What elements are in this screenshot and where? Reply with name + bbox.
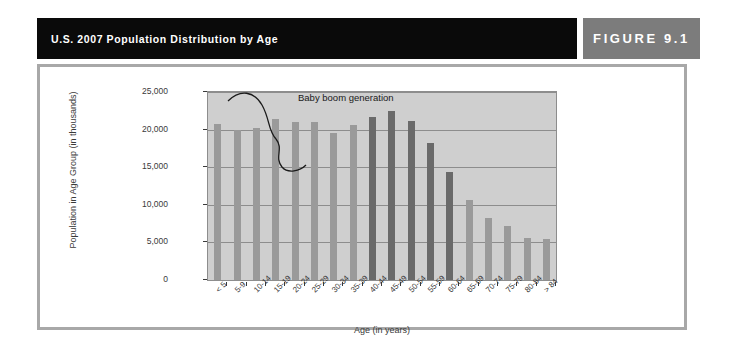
y-tick-label: 20,000 [142,124,168,134]
y-axis-label: Population in Age Group (in thousands) [68,85,78,255]
bar [485,218,492,280]
bar [466,200,473,280]
y-tick-label: 5,000 [147,236,168,246]
figure-frame: Population in Age Group (in thousands) 0… [37,64,687,330]
y-tick-label: 10,000 [142,199,168,209]
figure-header: U.S. 2007 Population Distribution by Age… [0,18,729,59]
x-axis-label: Age (in years) [207,325,557,335]
figure-number-box: FIGURE 9.1 [583,18,700,59]
bar [524,238,531,280]
bar [350,125,357,280]
y-tick-label: 15,000 [142,161,168,171]
bar [446,172,453,280]
bar [369,117,376,280]
title-bar: U.S. 2007 Population Distribution by Age [37,18,577,59]
annotation-text: Baby boom generation [298,92,394,103]
bar [427,143,434,280]
bar [504,226,511,280]
bar [388,111,395,280]
y-tick-label: 25,000 [142,86,168,96]
bar [408,121,415,280]
bar [543,239,550,280]
page-title: U.S. 2007 Population Distribution by Age [51,33,278,45]
bar-chart: Population in Age Group (in thousands) 0… [40,67,690,333]
figure-number-label: FIGURE 9.1 [593,31,690,46]
y-tick-label: 0 [163,274,168,284]
